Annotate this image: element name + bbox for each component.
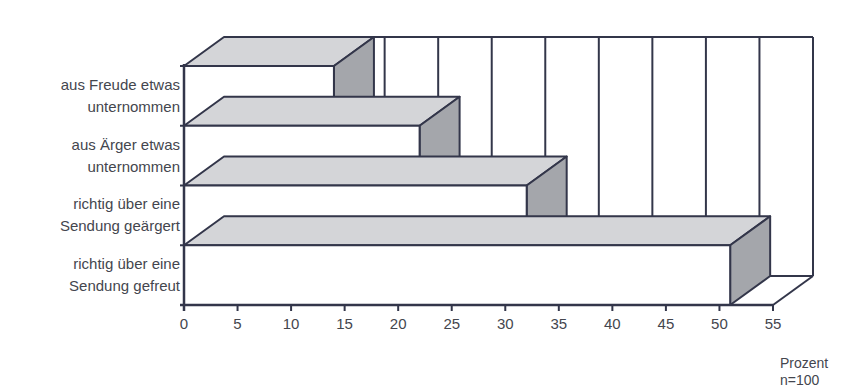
x-tick-label: 5 bbox=[233, 315, 241, 332]
category-label: aus Ärger etwasunternommen bbox=[72, 134, 180, 178]
x-tick-label: 0 bbox=[180, 315, 188, 332]
bar bbox=[184, 216, 770, 305]
floor-edge bbox=[773, 276, 813, 305]
bars bbox=[184, 37, 770, 305]
x-tick-label: 50 bbox=[711, 315, 728, 332]
category-label-line: aus Freude etwas bbox=[61, 74, 180, 96]
x-tick-label: 30 bbox=[497, 315, 514, 332]
sample-size-text: n=100 bbox=[780, 372, 828, 389]
category-label-line: Sendung geärgert bbox=[60, 215, 180, 237]
x-tick-label: 55 bbox=[765, 315, 782, 332]
x-tick-label: 25 bbox=[443, 315, 460, 332]
category-label-line: unternommen bbox=[61, 96, 180, 118]
bar-top-face bbox=[184, 157, 567, 186]
category-label: aus Freude etwasunternommen bbox=[61, 74, 180, 118]
unit-text: Prozent bbox=[780, 355, 828, 372]
category-label: richtig über eineSendung geärgert bbox=[60, 193, 180, 237]
category-label-line: aus Ärger etwas bbox=[72, 134, 180, 156]
bar-front-face bbox=[184, 245, 730, 305]
x-tick-label: 45 bbox=[658, 315, 675, 332]
category-label-line: unternommen bbox=[72, 156, 180, 178]
x-tick-label: 35 bbox=[550, 315, 567, 332]
axis-unit-label: Prozent n=100 bbox=[780, 355, 828, 389]
bar-top-face bbox=[184, 216, 770, 245]
x-tick-label: 40 bbox=[604, 315, 621, 332]
x-tick-label: 15 bbox=[336, 315, 353, 332]
x-tick-label: 10 bbox=[283, 315, 300, 332]
category-label-line: richtig über eine bbox=[69, 253, 180, 275]
x-tick-label: 20 bbox=[390, 315, 407, 332]
category-label-line: richtig über eine bbox=[60, 193, 180, 215]
bar-top-face bbox=[184, 97, 460, 126]
category-label-line: Sendung gefreut bbox=[69, 275, 180, 297]
category-label: richtig über eineSendung gefreut bbox=[69, 253, 180, 297]
